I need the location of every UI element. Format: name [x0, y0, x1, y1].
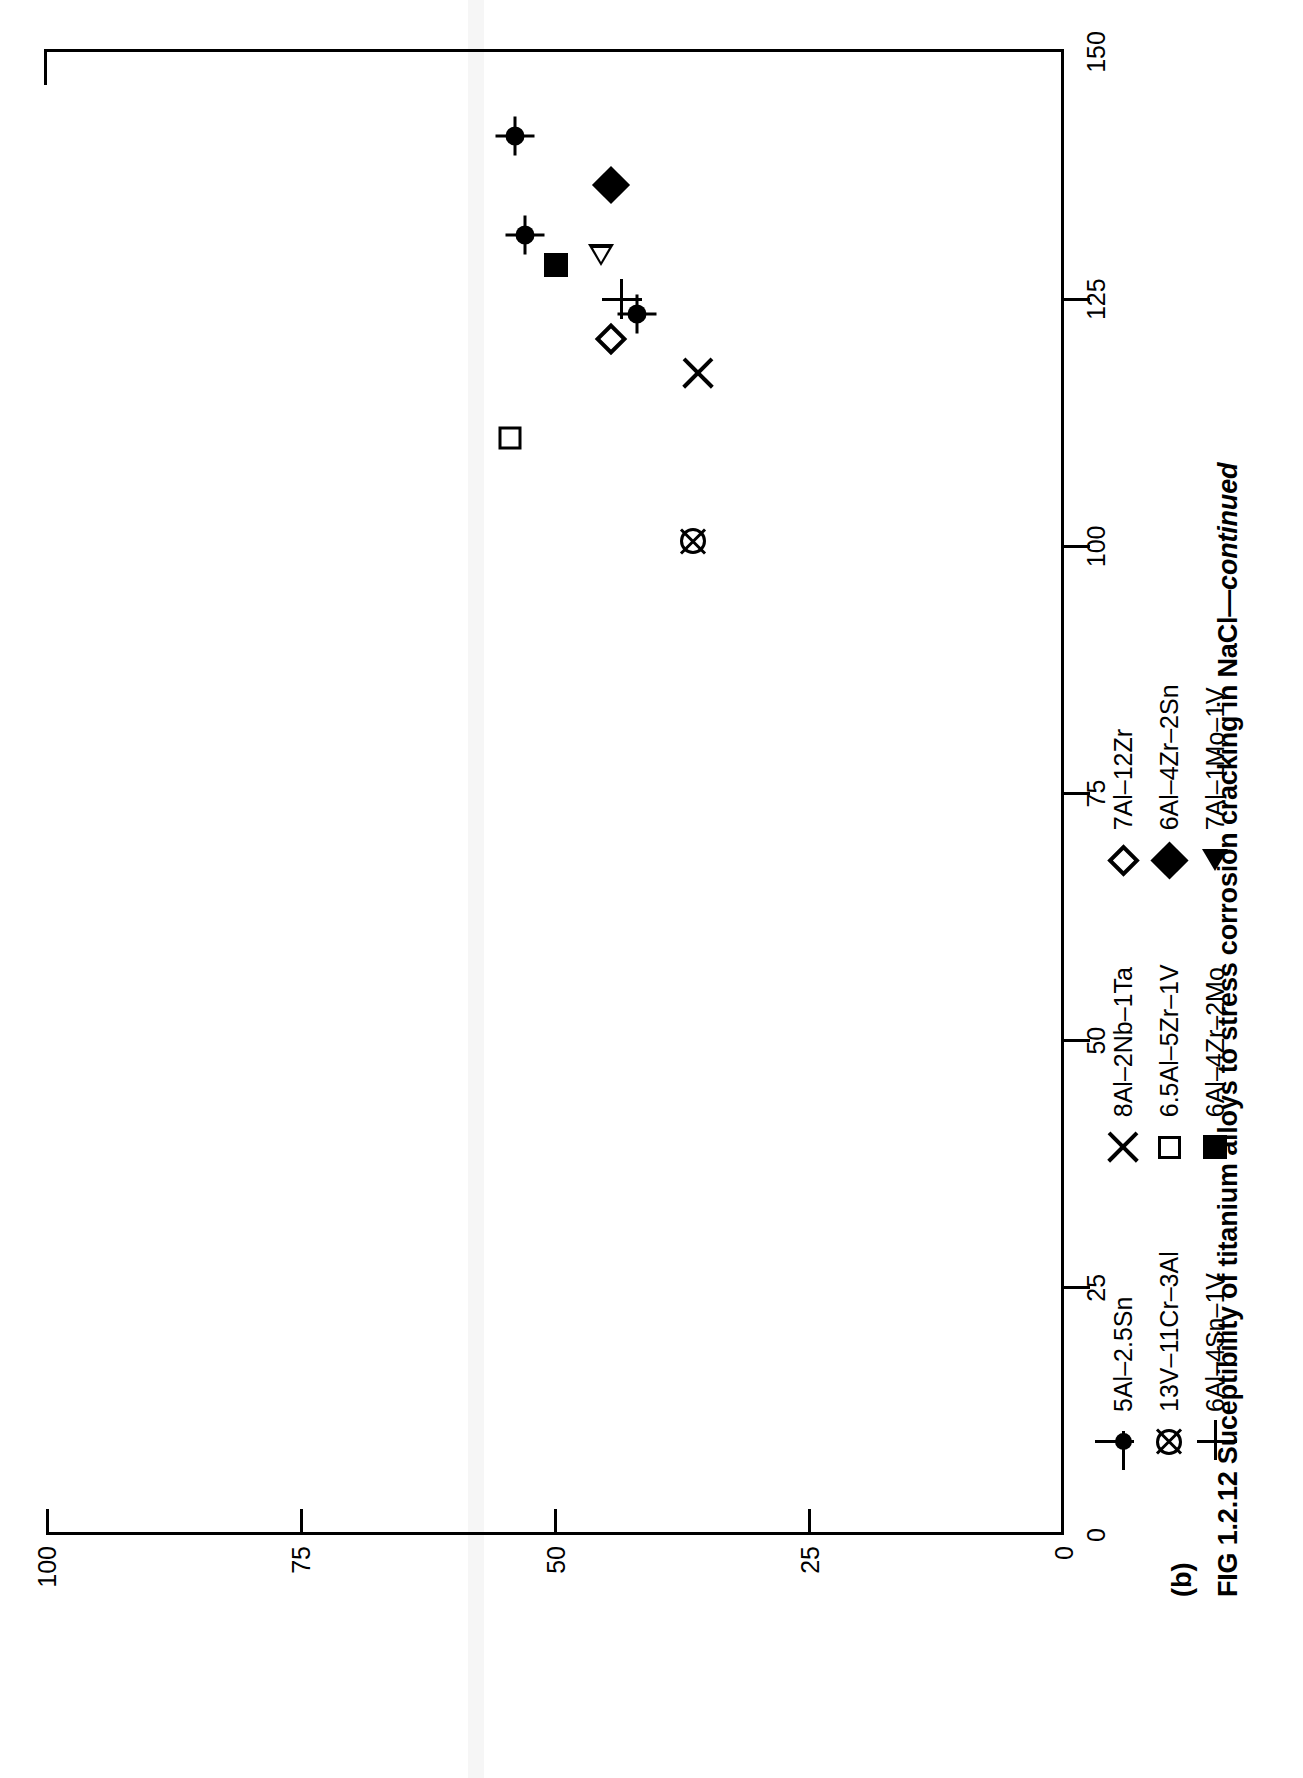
legend-item[interactable]: 8Al–2Nb–1Ta [1105, 964, 1141, 1165]
legend-item[interactable]: 6.5Al–5Zr–1V [1151, 964, 1187, 1165]
data-point-open-square [498, 426, 521, 449]
data-point-open-triangle-left [588, 244, 614, 266]
data-point-x-cross [681, 356, 715, 390]
open-square-marker [1158, 1136, 1181, 1159]
x-axis-tick-label: 125 [1082, 278, 1111, 320]
legend-label: 5Al–2.5Sn [1109, 1297, 1138, 1412]
legend-marker [1105, 1129, 1141, 1165]
data-point-filled-circle-crosshair [515, 225, 534, 244]
filled-diamond-marker [1150, 841, 1188, 879]
y-axis-tick-label: 25 [795, 1546, 824, 1574]
legend-marker [1151, 1424, 1187, 1460]
data-point-crossed-circle [680, 528, 706, 554]
data-points-layer [0, 0, 26, 1778]
legend-marker [1151, 1129, 1187, 1165]
y-axis-tick [300, 1509, 303, 1535]
y-axis-tick [554, 1509, 557, 1535]
caption-continued: continued [1213, 463, 1243, 590]
panel-letter: (b) [1167, 1563, 1198, 1597]
legend-item[interactable]: 5Al–2.5Sn [1105, 1251, 1141, 1460]
legend-label: 13V–11Cr–3Al [1155, 1251, 1184, 1412]
legend-label: 7Al–12Zr [1109, 729, 1138, 830]
crossed-circle-marker [1156, 1429, 1182, 1455]
plot-right-edge [44, 49, 1064, 52]
legend-label: 6.5Al–5Zr–1V [1155, 964, 1184, 1117]
data-point-filled-square [544, 253, 568, 277]
y-axis-tick-label: 50 [541, 1546, 570, 1574]
data-point-plus [602, 279, 642, 319]
rotated-page: 0255075100125150 0255075100 5Al–2.5Sn13V… [0, 0, 1303, 1778]
legend-item[interactable]: 6Al–4Zr–2Sn [1151, 684, 1187, 878]
legend-marker [1105, 842, 1141, 878]
plot-top-edge [44, 49, 47, 85]
legend-item[interactable]: 13V–11Cr–3Al [1151, 1251, 1187, 1460]
y-axis-tick [808, 1509, 811, 1535]
data-point-filled-circle-crosshair [505, 127, 524, 146]
legend-marker [1151, 842, 1187, 878]
figure-caption: FIG 1.2.12 Suceptibility of titanium all… [1213, 463, 1244, 1597]
open-diamond-marker [1107, 844, 1140, 877]
y-axis-tick-label: 100 [33, 1546, 62, 1588]
y-axis-tick-label: 0 [1050, 1546, 1079, 1560]
x-cross-marker [1106, 1130, 1140, 1164]
filled-circle-crosshair-marker [1115, 1434, 1132, 1451]
caption-dash: — [1213, 590, 1243, 617]
legend-label: 6Al–4Zr–2Sn [1155, 684, 1184, 830]
x-axis-tick-label: 150 [1082, 31, 1111, 73]
legend-item[interactable]: 7Al–12Zr [1105, 684, 1141, 878]
x-axis-tick-label: 0 [1082, 1528, 1111, 1542]
y-axis-tick [46, 1509, 49, 1535]
legend-marker [1105, 1424, 1141, 1460]
y-axis-tick-label: 75 [287, 1546, 316, 1574]
legend-label: 8Al–2Nb–1Ta [1109, 967, 1138, 1117]
caption-main-text: FIG 1.2.12 Suceptibility of titanium all… [1213, 617, 1243, 1597]
x-axis-tick-label: 100 [1082, 525, 1111, 567]
